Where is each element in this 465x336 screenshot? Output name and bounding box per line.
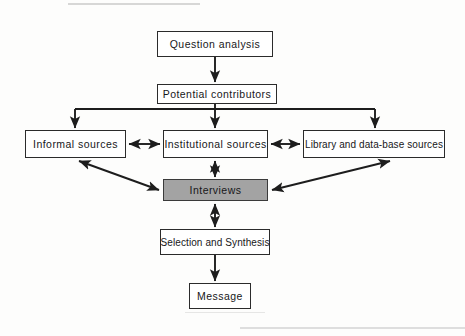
edge-informal-sources-interviews [79,161,159,190]
node-informal-sources[interactable]: Informal sources [25,130,126,158]
node-message-label: Message [197,290,243,302]
node-selection-and-synthesis-label: Selection and Synthesis [160,237,269,248]
node-library-and-database-sources[interactable]: Library and data-base sources [303,130,445,158]
node-informal-sources-label: Informal sources [33,138,118,150]
node-institutional-sources-label: Institutional sources [164,138,266,150]
edge-library-sources-interviews [272,161,390,190]
node-interviews[interactable]: Interviews [163,179,268,201]
flowchart-figure: Question analysis Potential contributors… [0,0,465,336]
node-library-and-database-sources-label: Library and data-base sources [305,139,443,150]
node-potential-contributors[interactable]: Potential contributors [157,84,277,104]
node-selection-and-synthesis[interactable]: Selection and Synthesis [160,229,270,255]
scan-artifact-bottom-center [185,312,265,313]
node-institutional-sources[interactable]: Institutional sources [163,130,268,158]
node-message[interactable]: Message [189,283,251,309]
node-potential-contributors-label: Potential contributors [163,88,272,100]
node-question-analysis-label: Question analysis [170,38,261,50]
node-question-analysis[interactable]: Question analysis [157,31,273,57]
node-interviews-label: Interviews [190,184,242,196]
scan-artifact-top [68,3,200,5]
scan-artifact-bottom-right [240,327,465,329]
